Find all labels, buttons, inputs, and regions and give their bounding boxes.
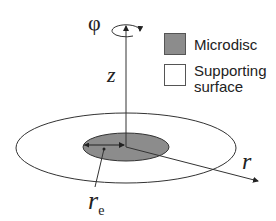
re-label-main: r — [88, 186, 98, 215]
legend-label-supporting: Supporting — [194, 62, 267, 79]
re-label: re — [88, 186, 104, 216]
legend-swatch-microdisc — [164, 33, 186, 55]
phi-label: φ — [88, 10, 101, 36]
re-label-subscript: e — [98, 203, 104, 218]
legend-swatch-supporting-surface — [164, 64, 186, 86]
diagram-graphics — [0, 0, 276, 221]
legend-label-microdisc: Microdisc — [194, 36, 257, 53]
microdisc-coordinate-diagram: φ z r re Microdisc Supporting surface — [0, 0, 276, 221]
legend-label-surface: surface — [194, 78, 243, 95]
r-label: r — [242, 148, 251, 175]
z-label: z — [107, 62, 116, 88]
